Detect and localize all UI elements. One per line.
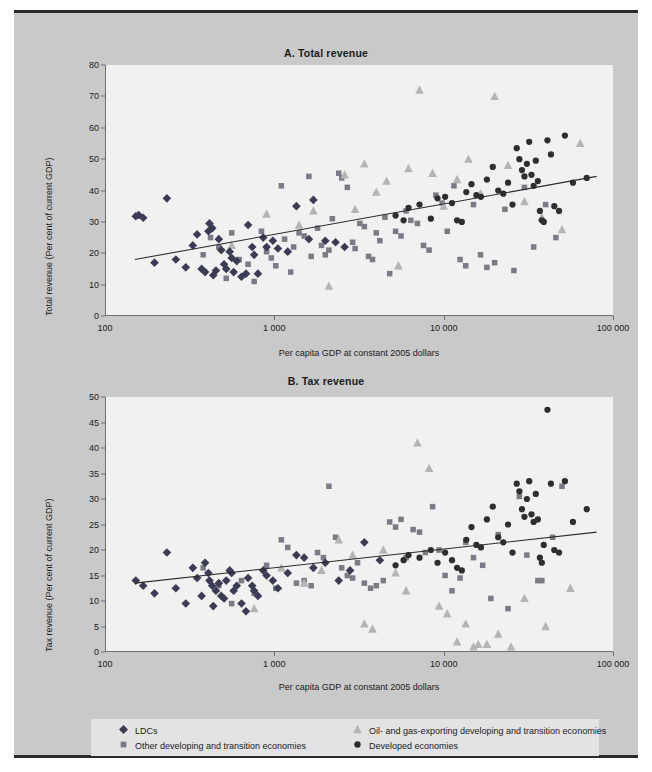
data-point [251,279,257,285]
data-point [345,185,351,191]
data-point [172,584,181,593]
data-point [229,601,235,607]
data-point [524,496,530,502]
data-point [317,566,326,574]
data-point [517,494,523,500]
data-point [269,255,275,261]
data-point [490,504,496,510]
data-point [391,568,400,576]
panel-b-y-axis-label: Tax revenue (Per cent of current GDP) [44,498,54,652]
data-point [417,529,423,535]
data-point [443,609,452,617]
data-point [541,219,547,225]
data-point [459,219,465,225]
data-point [430,504,436,510]
data-point [323,252,329,258]
y-tick-mark [101,284,105,285]
data-point [541,542,547,548]
panel-a-y-axis-label: Total revenue (Per cent of current GDP) [44,157,54,316]
data-point [340,170,349,178]
data-point [259,229,265,235]
y-tick-label: 10 [89,596,99,606]
legend-item-ldcs: LDCs [119,725,158,736]
y-tick-mark [101,652,105,653]
data-point [434,195,440,201]
data-point [309,564,318,573]
data-point [404,164,413,172]
data-point [495,534,501,540]
data-point [362,224,368,230]
data-point [562,132,568,138]
data-point [392,562,398,568]
data-point [528,511,534,517]
data-point [269,236,278,245]
data-point [400,557,406,563]
data-point [229,230,235,236]
data-point [244,221,253,230]
data-point [484,265,490,271]
data-point [468,524,474,530]
data-point [355,560,361,566]
data-point [484,176,490,182]
data-point [374,230,380,236]
data-point [541,622,550,630]
y-tick-mark [101,524,105,525]
data-point [181,599,190,608]
data-point [566,584,575,592]
triangle-marker-icon [353,725,362,736]
chart-panel-a: A. Total revenue Total revenue (Per cent… [14,13,638,373]
data-point [188,564,197,573]
data-point [461,619,470,627]
data-point [398,233,404,239]
data-point [368,624,377,632]
data-point [421,243,427,249]
data-point [279,183,285,189]
data-point [444,229,450,235]
panel-a-scatter-canvas [105,65,613,316]
x-tick-label: 1 000 [263,323,286,333]
x-tick-mark [444,652,445,656]
y-tick-label: 25 [89,520,99,530]
y-tick-mark [101,127,105,128]
data-point [556,549,562,555]
data-point [428,169,437,177]
data-point [269,576,278,585]
data-point [535,516,541,522]
data-point [524,552,530,558]
data-point [524,161,530,167]
data-point [279,537,285,543]
y-tick-mark [101,422,105,423]
data-point [463,537,469,543]
data-point [484,516,490,522]
data-point [150,258,159,267]
data-point [350,575,356,581]
data-point [382,176,391,184]
data-point [463,189,469,195]
data-point [273,263,279,269]
y-tick-mark [101,397,105,398]
data-point [520,197,529,205]
data-point [492,260,498,266]
data-point [181,263,190,272]
data-point [537,208,543,214]
y-tick-label: 35 [89,469,99,479]
data-point [415,221,421,227]
data-point [459,567,465,573]
data-point [543,202,549,208]
data-point [519,506,525,512]
data-point [262,209,271,217]
data-point [474,640,483,648]
data-point [451,183,457,189]
data-point [478,252,484,258]
data-point [244,574,253,583]
data-point [197,592,206,601]
data-point [562,478,568,484]
data-point [362,580,368,586]
data-point [526,139,532,145]
data-point [295,220,304,228]
data-point [398,517,404,523]
data-point [502,207,508,213]
data-point [264,563,270,569]
x-tick-mark [274,316,275,320]
data-point [200,252,206,258]
